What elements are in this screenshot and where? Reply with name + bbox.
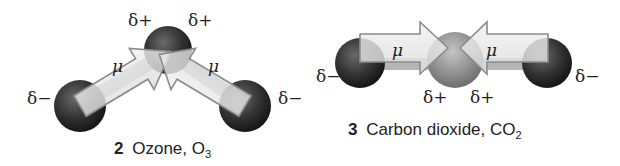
co2-center-right-partial-charge: δ+ [470,87,494,107]
co2-caption-name: Carbon dioxide, CO [366,120,515,139]
dipole-diagram: μ μ δ+ δ+ δ− δ− 2 Ozone, O3 μ μ δ+ δ+ δ−… [0,0,620,166]
ozone-center-left-partial-charge: δ+ [128,10,152,30]
co2-right-partial-charge: δ− [575,66,599,86]
ozone-left-partial-charge: δ− [27,88,51,108]
ozone-caption-subscript: 3 [205,148,211,160]
co2-right-mu-label: μ [486,40,497,60]
co2-left-partial-charge: δ− [316,66,340,86]
co2-caption-subscript: 2 [516,129,522,141]
co2-molecule: μ μ δ+ δ+ δ− δ− 3 Carbon dioxide, CO2 [316,22,599,141]
ozone-molecule: μ μ δ+ δ+ δ− δ− 2 Ozone, O3 [27,10,302,160]
ozone-caption-name: Ozone, O [132,139,205,158]
ozone-right-partial-charge: δ− [278,88,302,108]
co2-figure-number: 3 [348,120,357,139]
co2-left-mu-label: μ [392,40,403,60]
co2-caption: 3 Carbon dioxide, CO2 [348,120,522,141]
ozone-center-right-partial-charge: δ+ [188,10,212,30]
ozone-figure-number: 2 [114,139,123,158]
ozone-right-mu-label: μ [208,56,219,76]
co2-center-left-partial-charge: δ+ [423,87,447,107]
ozone-caption: 2 Ozone, O3 [114,139,211,160]
ozone-left-mu-label: μ [112,56,123,76]
